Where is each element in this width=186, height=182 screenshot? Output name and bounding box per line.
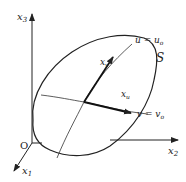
u-curve — [57, 44, 132, 158]
x1-label: x1 — [22, 165, 32, 178]
origin-label: O — [20, 140, 28, 151]
surface-diagram: x3 O x1 x2 S u = uo v = vo xv xu — [0, 0, 186, 182]
x3-label: x3 — [17, 11, 28, 24]
xu-label: xu — [121, 89, 130, 100]
xu-vector — [84, 102, 131, 113]
v-curve-label: v = vo — [137, 109, 164, 120]
u-curve-label: u = uo — [135, 35, 164, 46]
x2-label: x2 — [168, 145, 179, 158]
xv-label: xv — [100, 57, 109, 68]
xv-vector — [84, 57, 113, 102]
surface-label: S — [156, 51, 164, 65]
surface-outline — [33, 35, 157, 155]
